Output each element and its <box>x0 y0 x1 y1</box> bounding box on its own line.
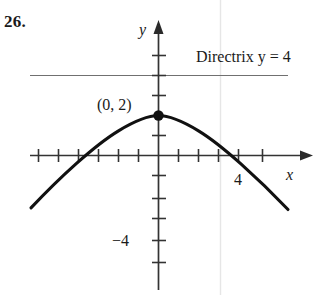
vertex-point-label: (0, 2) <box>97 96 132 114</box>
y-tick-label-negative-4: −4 <box>112 232 129 249</box>
x-axis-label: x <box>285 166 293 183</box>
figure-page: 26. <box>0 0 325 295</box>
x-axis-arrowhead <box>300 151 313 161</box>
parabola-figure: (0, 2) Directrix y = 4 y x 4 −4 <box>0 0 325 295</box>
x-tick-label-4: 4 <box>234 171 242 188</box>
y-axis-arrowhead <box>154 20 164 34</box>
y-axis-label: y <box>137 21 147 39</box>
vertex-point-marker <box>153 110 163 120</box>
parabola-curve <box>31 116 288 210</box>
directrix-label: Directrix y = 4 <box>196 48 291 66</box>
